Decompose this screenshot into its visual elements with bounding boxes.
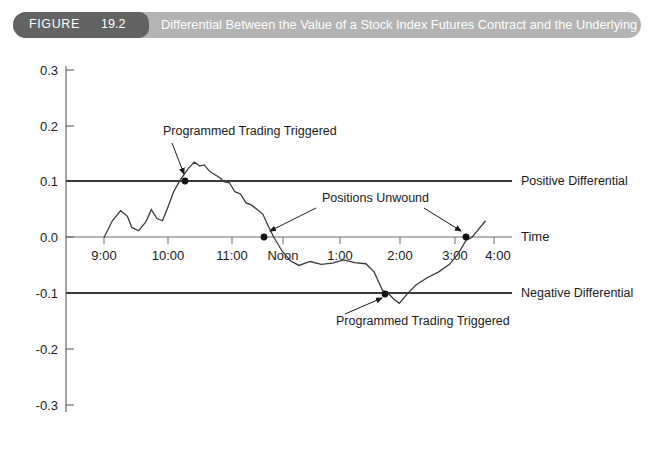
marker-pt-triggered-top [182,178,189,185]
marker-positions-unwound-left [261,234,268,241]
differential-line-chart: 0.3 0.2 0.1 0.0 -0.1 -0.2 -0.3 9:00 10:0… [0,44,654,449]
x-axis: 9:00 10:00 11:00 Noon 1:00 2:00 3:00 4:0… [91,237,510,263]
annotation-programmed-trading-bottom: Programmed Trading Triggered [336,298,510,328]
marker-pt-triggered-bottom [382,291,389,298]
figure-title: Differential Between the Value of a Stoc… [161,17,654,32]
annotation-arrow-positions-unwound-right [424,208,461,231]
label-negative-differential: Negative Differential [521,286,633,300]
annotation-arrow-pt-bottom [345,298,382,314]
x-tick-label-0: 9:00 [91,248,116,263]
figure-header-bar: FIGURE 19.2 Differential Between the Val… [13,12,641,38]
y-axis: 0.3 0.2 0.1 0.0 -0.1 -0.2 -0.3 [36,63,74,413]
y-tick-label-6: -0.3 [36,398,58,413]
y-tick-label-0: 0.3 [40,63,58,78]
x-tick-label-1: 10:00 [152,248,185,263]
x-tick-label-7: 4:00 [485,248,510,263]
y-tick-label-3: 0.0 [40,230,58,245]
reference-labels: Positive Differential Time Negative Diff… [521,174,633,300]
annotation-positions-unwound: Positions Unwound [270,191,461,231]
y-tick-label-4: -0.1 [36,286,58,301]
differential-line-path [104,162,486,303]
x-tick-label-3: Noon [267,248,298,263]
y-tick-label-1: 0.2 [40,119,58,134]
label-positive-differential: Positive Differential [521,174,628,188]
y-tick-label-5: -0.2 [36,342,58,357]
annotation-programmed-trading-top: Programmed Trading Triggered [163,124,337,174]
data-series-differential [104,162,486,303]
annotation-label-positions-unwound: Positions Unwound [322,191,429,205]
annotation-label-pt-top: Programmed Trading Triggered [163,124,337,138]
figure-tag-word: FIGURE [29,17,80,31]
annotation-arrow-pt-top [172,143,184,174]
marker-positions-unwound-right [463,234,470,241]
y-tick-label-2: 0.1 [40,174,58,189]
annotation-label-pt-bottom: Programmed Trading Triggered [336,314,510,328]
x-tick-label-2: 11:00 [216,248,248,263]
x-tick-label-6: 3:00 [442,248,467,263]
annotation-arrow-positions-unwound-left [270,208,316,231]
label-time-axis: Time [521,229,549,244]
x-tick-label-5: 2:00 [387,248,412,263]
figure-tag-number: 19.2 [101,17,125,31]
chart-container: 0.3 0.2 0.1 0.0 -0.1 -0.2 -0.3 9:00 10:0… [0,44,654,449]
reference-lines [66,181,512,293]
